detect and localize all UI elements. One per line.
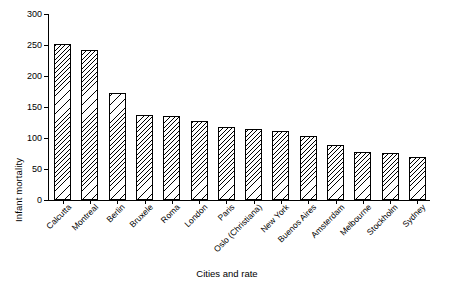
x-tick-label: Berlin [105,202,127,224]
x-tick-label: Calcutta [44,202,73,231]
y-tick-label: 100 [27,133,42,143]
infant-mortality-bar-chart: Infant mortality 050100150200250300 Calc… [0,0,454,291]
x-tick-label: London [182,202,209,229]
bar [163,116,180,200]
x-tick-label-text: Roma [158,202,181,225]
y-tick-mark [44,138,48,139]
bar [136,115,153,200]
y-tick-mark [44,76,48,77]
bar [272,131,289,200]
x-tick-label: Oslo (Christiana) [211,202,263,254]
y-tick-mark [44,107,48,108]
x-tick-label-text: Oslo (Christiana) [211,202,263,254]
bar [81,50,98,200]
bar [54,44,71,200]
bar [218,127,235,200]
bar [300,136,317,200]
y-tick-label: 250 [27,40,42,50]
x-tick-label: Sydney [401,202,428,229]
x-tick-label: Montreal [70,202,100,232]
x-tick-label: Paris [216,202,237,223]
bar [109,93,126,200]
y-tick-label: 50 [32,164,42,174]
x-axis-line [48,200,430,201]
bar [245,129,262,200]
plot-area: 050100150200250300 [48,14,430,200]
bar [191,121,208,200]
bar [354,152,371,200]
y-tick-mark [44,169,48,170]
y-tick-mark [44,45,48,46]
x-tick-label: Bruxele [127,202,154,229]
y-tick-label: 200 [27,71,42,81]
bar [327,145,344,200]
bar [409,157,426,200]
x-tick-label-text: London [182,202,209,229]
y-tick-label: 0 [37,195,42,205]
x-tick-label-text: Calcutta [44,202,73,231]
x-tick-label-text: Montreal [70,202,100,232]
x-tick-label-text: Sydney [401,202,428,229]
y-axis-title-label: Infant mortality [13,158,24,222]
bar-series [49,14,430,200]
x-axis-labels: CalcuttaMontrealBerlinBruxeleRomaLondonP… [48,202,430,264]
y-tick-label: 150 [27,102,42,112]
y-tick-mark [44,14,48,15]
bar [382,153,399,200]
x-axis-title: Cities and rate [0,268,454,279]
y-tick-label: 300 [27,9,42,19]
x-tick-label-text: Paris [216,202,237,223]
x-tick-label: Roma [158,202,181,225]
x-tick-label-text: Berlin [105,202,127,224]
x-tick-label-text: Bruxele [127,202,154,229]
y-tick-mark [44,200,48,201]
